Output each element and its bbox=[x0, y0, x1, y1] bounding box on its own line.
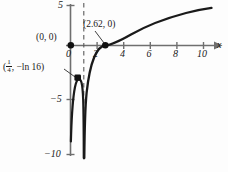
x-tick-label-2: 2 bbox=[93, 48, 98, 59]
point-x-intercept bbox=[102, 42, 109, 49]
x-axis-label: x bbox=[217, 39, 221, 50]
x-tick-label-0: 0 bbox=[66, 48, 71, 59]
x-tick-label-6: 6 bbox=[147, 48, 152, 59]
y-tick-label-5: 5 bbox=[58, 0, 63, 10]
annotation-minimum-rest: , −ln 16) bbox=[12, 62, 45, 72]
x-tick-label-10: 10 bbox=[197, 48, 207, 59]
figure-canvas: 0 2 4 6 8 10 5 −5 −10 x (0, 0) (2.62, 0)… bbox=[0, 0, 228, 172]
x-tick-label-8: 8 bbox=[173, 48, 178, 59]
annotation-origin: (0, 0) bbox=[36, 32, 57, 42]
y-tick-label-neg5: −5 bbox=[50, 93, 62, 104]
leader-line-x-intercept bbox=[95, 31, 104, 43]
annotation-minimum: (14, −ln 16) bbox=[3, 59, 44, 74]
x-tick-label-4: 4 bbox=[120, 48, 125, 59]
annotation-x-intercept: (2.62, 0) bbox=[83, 19, 115, 29]
curve-right-branch bbox=[84, 8, 211, 158]
curve-left-branch bbox=[71, 79, 84, 158]
point-minimum bbox=[74, 75, 81, 81]
y-tick-label-neg10: −10 bbox=[44, 148, 61, 159]
